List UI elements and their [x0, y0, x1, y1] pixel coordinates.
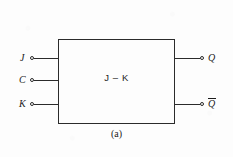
input-wire-j — [34, 58, 59, 59]
figure-caption: (a) — [58, 128, 175, 139]
output-wire-q — [175, 58, 200, 59]
input-label-c: C — [19, 75, 26, 85]
input-label-j: J — [20, 53, 24, 63]
output-label-q: Q — [208, 53, 215, 63]
figure-caption-text: (a) — [111, 128, 122, 139]
overbar-glyph: Q — [208, 98, 215, 109]
jk-flip-flop-figure: J C K J – K Q Q (a) — [0, 0, 233, 157]
output-wire-q-bar — [175, 104, 200, 105]
output-label-q-bar: Q — [208, 98, 215, 109]
input-wire-c — [34, 80, 59, 81]
output-terminal-q-bar[interactable] — [200, 102, 204, 106]
input-wire-k — [34, 104, 59, 105]
output-terminal-q[interactable] — [200, 56, 204, 60]
jk-block-label: J – K — [58, 73, 175, 83]
input-label-k: K — [19, 99, 26, 109]
